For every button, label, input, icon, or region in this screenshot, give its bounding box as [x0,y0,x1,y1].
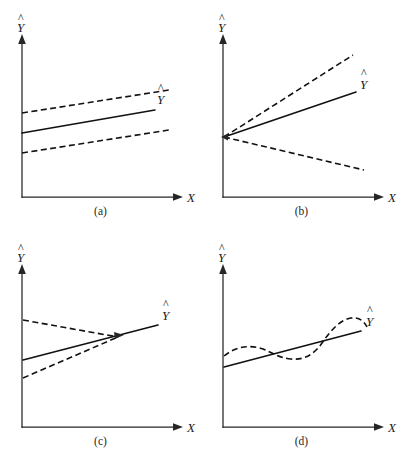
panel-c-y-axis-label: Y [17,250,26,265]
panel-c-curve-label: Y [162,308,171,323]
panel-d-caption: (d) [201,435,402,447]
panel-b-x-axis-label: X [387,190,397,205]
panel-a-y-axis-arrow-icon [18,34,26,44]
panel-d-y-axis-label: Y [218,250,227,265]
panel-a-lower-band [22,130,169,153]
panel-b-fitted-line [224,92,356,137]
panel-d-x-axis-arrow-icon [374,423,384,431]
panel-d-curve-label: Y [366,314,375,329]
panel-c-fitted-line [23,325,158,360]
panel-d-x-axis-label: X [387,420,397,435]
panel-d-y-axis-arrow-icon [219,264,227,274]
panel-a-x-axis-arrow-icon [173,193,183,201]
panel-a-caption: (a) [0,205,201,217]
panel-b-lower-band [224,137,364,170]
panel-c-x-axis-arrow-icon [173,423,183,431]
panel-a-y-axis-label: Y [17,20,26,35]
panel-c-lower-band [23,337,118,378]
panel-b-y-axis-arrow-icon [219,34,227,44]
panel-d-fitted-line [224,331,361,367]
panel-c-x-axis-label: X [186,420,196,435]
panel-c-upper-band [23,320,118,337]
panel-c: ^ Y X ^ Y (c) [0,230,201,460]
panel-b-upper-band [224,55,353,137]
panel-b-curve-label: Y [360,77,369,92]
panel-b-origin-marker [221,134,228,141]
panel-a: ^ Y X ^ Y (a) [0,0,201,230]
panel-b-y-axis-label: Y [218,20,227,35]
panel-b: ^ Y X ^ Y (b) [201,0,402,230]
panel-b-x-axis-arrow-icon [374,193,384,201]
panel-c-convergence-marker [114,332,124,339]
panel-d: ^ Y X ^ Y (d) [201,230,402,460]
panel-a-fitted-line [22,110,155,133]
panel-a-curve-label: Y [157,92,166,107]
panel-b-caption: (b) [201,205,402,217]
panel-c-y-axis-arrow-icon [18,264,26,274]
panel-a-x-axis-label: X [186,190,196,205]
figure-container: ^ Y X ^ Y (a) ^ Y [0,0,402,460]
panel-d-wavy-curve [224,318,367,359]
panel-c-caption: (c) [0,435,201,447]
panel-a-upper-band [22,90,169,113]
